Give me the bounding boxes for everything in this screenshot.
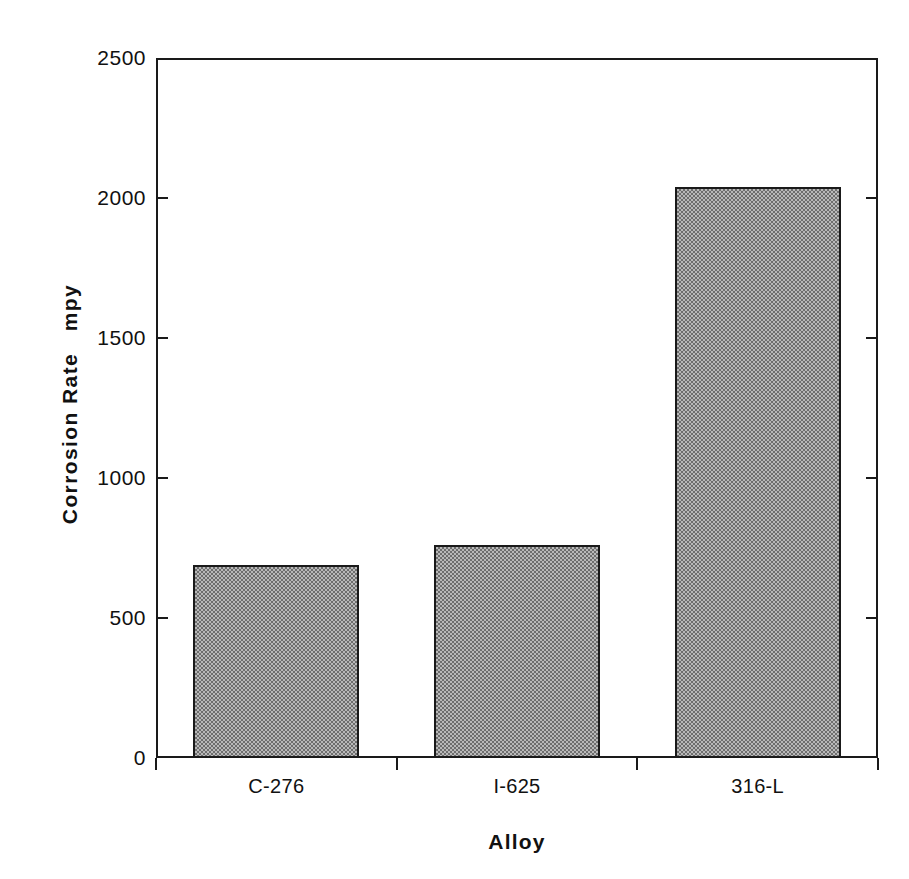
bar-c-276 — [193, 565, 359, 758]
x-axis-tick — [877, 758, 879, 770]
corrosion-rate-bar-chart: 05001000150020002500 C-276I-625316-L Cor… — [0, 0, 909, 879]
bar-i-625 — [434, 545, 600, 758]
y-axis-tick-right — [866, 337, 878, 339]
y-axis-tick-right — [866, 477, 878, 479]
y-axis-tick-right — [866, 197, 878, 199]
y-axis-tick-right — [866, 617, 878, 619]
x-axis-title: Alloy — [156, 830, 878, 854]
y-axis-tick — [156, 337, 168, 339]
bar-316-l — [675, 187, 841, 758]
x-axis-tick-label: I-625 — [397, 775, 638, 797]
y-axis-title: Corrosion Rate mpy — [58, 54, 82, 754]
x-axis-tick — [636, 758, 638, 770]
y-axis-tick — [156, 197, 168, 199]
x-axis-tick-label: C-276 — [156, 775, 397, 797]
y-axis-tick — [156, 617, 168, 619]
x-axis-tick-label: 316-L — [637, 775, 878, 797]
x-axis-tick — [155, 758, 157, 770]
y-axis-tick — [156, 477, 168, 479]
x-axis-tick — [396, 758, 398, 770]
